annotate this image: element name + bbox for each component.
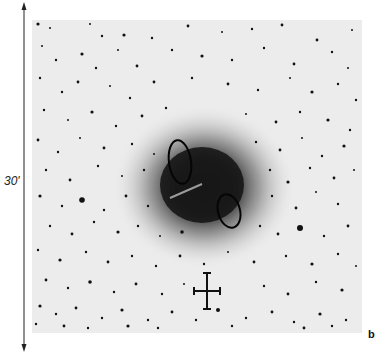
cross-marker-icon: [193, 272, 221, 310]
star: [179, 255, 182, 258]
star: [316, 39, 319, 42]
star: [58, 258, 61, 261]
star: [293, 321, 295, 323]
star: [333, 177, 336, 180]
star: [116, 230, 119, 233]
star: [253, 261, 256, 264]
star: [180, 230, 184, 234]
star: [155, 265, 157, 267]
star: [115, 125, 117, 127]
star: [326, 118, 329, 121]
star: [309, 167, 311, 169]
star: [95, 67, 97, 69]
star: [103, 147, 106, 150]
star: [349, 129, 351, 131]
star: [109, 85, 111, 87]
star: [323, 235, 325, 237]
star: [159, 235, 161, 237]
star: [63, 325, 66, 328]
star: [231, 59, 233, 61]
star: [55, 313, 57, 315]
star: [281, 24, 284, 27]
star: [151, 37, 153, 39]
star: [79, 197, 85, 203]
star: [136, 65, 139, 68]
astronomical-figure: 30' b: [0, 0, 387, 354]
star: [61, 205, 63, 207]
star: [285, 255, 287, 257]
star: [355, 265, 357, 267]
star: [122, 33, 125, 36]
star: [353, 169, 355, 171]
star: [141, 115, 144, 118]
star: [161, 293, 163, 295]
star: [337, 203, 339, 205]
star: [263, 285, 265, 287]
star: [187, 25, 190, 28]
star: [45, 279, 48, 282]
star: [71, 233, 74, 236]
star: [263, 47, 265, 49]
star: [89, 23, 91, 25]
star: [35, 323, 37, 325]
star: [88, 280, 92, 284]
star: [227, 251, 229, 253]
star: [200, 54, 203, 57]
star: [195, 319, 197, 321]
star: [38, 194, 41, 197]
star: [293, 63, 296, 66]
star: [299, 111, 301, 113]
star: [303, 327, 306, 330]
star: [245, 113, 247, 115]
star: [279, 149, 282, 152]
star: [120, 308, 123, 311]
star: [345, 319, 347, 321]
star: [147, 205, 149, 207]
star: [87, 327, 89, 329]
star: [191, 77, 193, 79]
panel-label: b: [368, 328, 375, 340]
star: [61, 91, 63, 93]
star: [157, 327, 159, 329]
star: [49, 27, 51, 29]
star: [295, 207, 298, 210]
star: [67, 287, 69, 289]
star: [37, 249, 39, 251]
star: [39, 77, 41, 79]
star: [121, 175, 123, 177]
star: [277, 233, 280, 236]
star: [310, 90, 313, 93]
star: [43, 109, 45, 111]
star: [271, 195, 273, 197]
star: [101, 317, 103, 319]
star: [231, 325, 233, 327]
star: [117, 49, 119, 51]
star: [55, 59, 57, 61]
star: [347, 225, 350, 228]
star: [315, 281, 317, 283]
star: [38, 304, 41, 307]
star: [315, 191, 317, 193]
star: [37, 139, 40, 142]
star: [126, 324, 129, 327]
star: [49, 225, 51, 227]
star: [331, 325, 333, 327]
star: [125, 195, 128, 198]
star: [318, 312, 321, 315]
star: [275, 121, 278, 124]
star: [165, 107, 167, 109]
star: [97, 165, 99, 167]
star: [301, 137, 303, 139]
star: [183, 283, 185, 285]
star: [171, 49, 173, 51]
star: [203, 263, 205, 265]
star: [257, 89, 259, 91]
star: [251, 28, 253, 30]
star: [67, 119, 69, 121]
star: [79, 137, 81, 139]
star: [255, 141, 257, 143]
star: [129, 97, 131, 99]
star: [351, 29, 353, 31]
star: [342, 144, 345, 147]
star: [135, 283, 138, 286]
